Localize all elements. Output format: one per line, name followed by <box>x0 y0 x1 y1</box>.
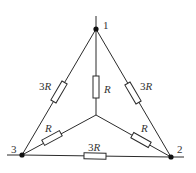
label-r13: 3R <box>39 80 52 92</box>
resistor-3r-1-3 <box>51 81 67 103</box>
node-1-label: 1 <box>103 19 109 31</box>
resistor-r-1-center <box>93 76 99 98</box>
label-r32: 3R <box>88 141 101 153</box>
resistor-3r-3-2 <box>84 153 106 159</box>
node-3-dot <box>19 152 24 157</box>
circuit-diagram: 1 2 3 3R 3R 3R R R R <box>0 0 196 173</box>
label-r2c: R <box>140 122 148 134</box>
label-r3c: R <box>44 122 52 134</box>
resistor-r-center-2 <box>131 132 151 147</box>
label-r12: 3R <box>140 80 153 92</box>
node-1-dot <box>93 26 98 31</box>
label-r1c: R <box>103 83 111 95</box>
resistor-3r-1-2 <box>125 82 141 104</box>
node-2-label: 2 <box>177 143 183 155</box>
node-3-label: 3 <box>11 143 17 155</box>
node-2-dot <box>168 154 173 159</box>
